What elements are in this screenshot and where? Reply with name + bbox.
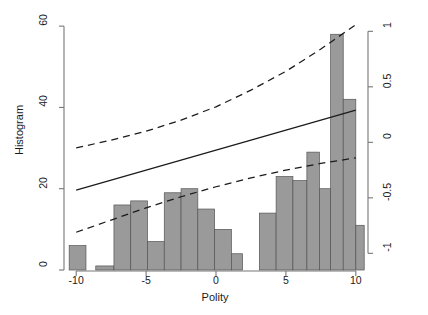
y-axis-label-left: Histogram [13,70,25,190]
histogram-bar [293,181,307,270]
histogram-bar [181,189,198,270]
histogram-bar [96,266,114,270]
x-tick-label: 10 [336,274,376,286]
histogram-bar [131,201,148,270]
histogram-bar [307,152,320,270]
y-tick-label-right: 0.5 [381,68,393,94]
y-tick-label-left: 0 [37,252,49,276]
histogram-bar [164,193,181,270]
histogram-bar [276,177,293,270]
histogram-bar [215,229,232,270]
histogram-bar [231,254,242,270]
y-tick-label-left: 40 [37,89,49,113]
y-tick-label-left: 60 [37,8,49,32]
x-tick-label: 5 [266,274,306,286]
y-tick-label-right: 0 [381,123,393,149]
y-tick-label-right: -0.5 [381,179,393,205]
y-tick-label-right: -1 [381,234,393,260]
histogram-bar [147,242,164,270]
y-tick-label-left: 20 [37,171,49,195]
figure: Histogram Marginal Effect of Trade Tax R… [0,0,428,315]
x-tick-label: 0 [196,274,236,286]
plot-area [0,0,428,315]
x-tick-label: -10 [56,274,96,286]
x-axis-label: Polity [150,291,280,303]
histogram-bar [319,189,330,270]
histogram-bars [69,34,364,270]
histogram-bar [356,225,364,270]
y-tick-label-right: 1 [381,12,393,38]
histogram-bar [259,213,276,270]
histogram-bar [331,34,344,270]
histogram-bar [343,99,356,270]
histogram-bar [69,246,86,270]
x-tick-label: -5 [126,274,166,286]
histogram-bar [198,209,215,270]
confidence-bound-line [76,25,356,148]
